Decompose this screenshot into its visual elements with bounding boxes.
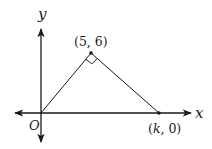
origin-label: O bbox=[29, 118, 40, 133]
side-origin-to-apex bbox=[41, 53, 91, 113]
apex-label: (5, 6) bbox=[74, 34, 108, 49]
diagram-canvas: y x O (5, 6) (k, 0) bbox=[0, 0, 212, 149]
base-point bbox=[157, 111, 161, 115]
right-angle-marker bbox=[86, 58, 98, 64]
base-label-k: k bbox=[153, 121, 161, 136]
base-label: (k, 0) bbox=[148, 121, 181, 136]
apex-point bbox=[89, 51, 93, 55]
y-axis-label: y bbox=[37, 5, 47, 23]
x-axis-label: x bbox=[195, 104, 204, 122]
base-label-rest: , 0) bbox=[160, 121, 181, 136]
side-apex-to-base bbox=[91, 53, 159, 113]
coordinate-diagram: y x O (5, 6) (k, 0) bbox=[0, 0, 212, 149]
